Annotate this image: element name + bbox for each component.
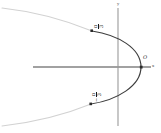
lower-point-fraction: π 3 (91, 92, 103, 97)
lower-point-marker (89, 103, 92, 106)
parabola-plot-svg (0, 0, 161, 133)
upper-fraction-denominator: 3 (98, 24, 104, 29)
x-axis-label: x (152, 64, 154, 68)
upper-point-marker (90, 29, 93, 32)
lower-fraction-sign: − (94, 97, 99, 102)
y-axis-label: y (117, 2, 119, 6)
parabola-faded-lower-branch (2, 104, 91, 126)
parabola-faded-upper-branch (2, 8, 92, 31)
lower-fraction-denominator: 3 (96, 92, 102, 97)
vertex-label: O (143, 55, 147, 60)
upper-point-fraction: π 3 (93, 24, 105, 29)
lower-point-label: − π 3 (88, 92, 104, 102)
math-figure: y x π 3 − π 3 O (0, 0, 161, 133)
upper-point-label: π 3 (90, 24, 106, 29)
vertex-point-marker (140, 66, 143, 69)
